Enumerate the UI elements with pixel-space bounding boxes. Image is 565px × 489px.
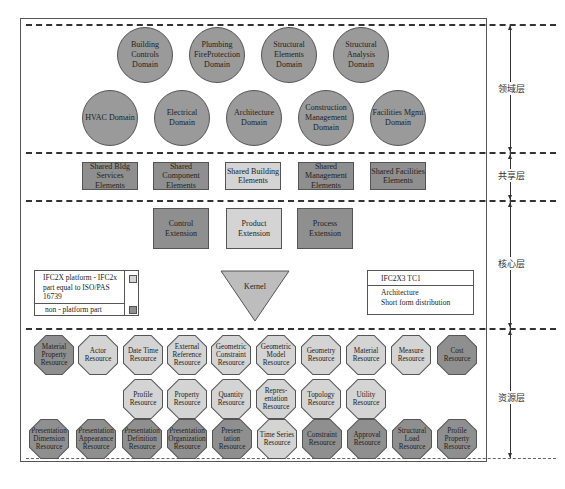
ifc-version-title: IFC2X3 TC1 (368, 271, 473, 286)
presentation-definition-resource: Presentation Definition Resource (123, 420, 161, 458)
resource-label: Property Resource (168, 391, 206, 407)
ifc-version-box: IFC2X3 TC1 Architecture Short form distr… (367, 270, 474, 315)
resource-label: Time Series Resource (258, 431, 296, 447)
shared-label: Shared Facilities Elements (371, 167, 425, 186)
presentation-organization-resource: Presentation Organization Resource (168, 420, 206, 458)
arrow-down-icon (508, 453, 512, 458)
presentation-resource: Presen- tation Resource (213, 420, 251, 458)
approval-resource: Approval Resource (348, 420, 386, 458)
shared-building-elements: Shared Building Elements (225, 162, 281, 190)
presentation-appearance-resource: Presentation Appearance Resource (77, 420, 115, 458)
topology-resource: Topology Resource (302, 380, 340, 418)
arrow-up-icon (508, 330, 512, 335)
kernel-triangle (220, 270, 290, 322)
material-resource: Material Resource (347, 336, 385, 374)
resource-label: Constraint Resource (303, 431, 341, 447)
shared-facilities-elements: Shared Facilities Elements (370, 162, 426, 190)
geometry-resource: Geometry Resource (302, 336, 340, 374)
layer-label-core: 核心层 (490, 257, 532, 270)
resource-label: Cost Resource (438, 347, 476, 363)
separator-domain-shared (26, 152, 556, 154)
separator-bottom (26, 458, 556, 459)
resource-label: Measure Resource (392, 347, 430, 363)
arrow-up-icon (508, 154, 512, 159)
resource-label: Presentation Dimension Resource (30, 427, 68, 452)
ifc-distribution: Short form distribution (381, 298, 473, 308)
profile-property-resource: Profile Property Resource (438, 420, 476, 458)
domain-label: Building Controls Domain (118, 40, 172, 70)
domain-label: Structural Elements Domain (262, 40, 316, 70)
shared-label: Shared Management Elements (299, 162, 353, 191)
shared-component-elements: Shared Component Elements (153, 162, 209, 190)
resource-label: Topology Resource (302, 391, 340, 407)
layer-label-shared: 共享层 (490, 169, 532, 182)
process-extension: Process Extension (297, 208, 353, 249)
time-series-resource: Time Series Resource (258, 420, 296, 458)
domain-plumbing-fireprotection: Plumbing FireProtection Domain (189, 27, 245, 83)
resource-label: Material Property Resource (35, 343, 73, 368)
domain-label: Facilities Mgmt Domain (371, 108, 425, 128)
profile-resource: Profile Resource (124, 380, 162, 418)
legend-platform-text: IFC2X platform - IFC2x part equal to ISO… (35, 271, 125, 304)
domain-structural-elements: Structural Elements Domain (261, 27, 317, 83)
extension-label: Control Extension (154, 219, 208, 238)
resource-label: Profile Resource (124, 391, 162, 407)
measure-resource: Measure Resource (392, 336, 430, 374)
separator-shared-core (26, 200, 556, 202)
resource-label: Geometric Model Resource (257, 343, 295, 368)
control-extension: Control Extension (153, 208, 209, 249)
resource-label: Presentation Organization Resource (168, 427, 206, 452)
resource-label: Material Resource (347, 347, 385, 363)
constraint-resource: Constraint Resource (303, 420, 341, 458)
separator-top (26, 24, 556, 26)
domain-label: Construction Management Domain (299, 103, 353, 133)
shared-bldg-services-elements: Shared Bldg Services Elements (82, 162, 138, 190)
representation-resource: Repres- entation Resource (257, 380, 295, 418)
domain-electrical: Electrical Domain (154, 90, 210, 146)
arrow-down-icon (508, 195, 512, 200)
geometric-constraint-resource: Geometric Constraint Resource (212, 336, 250, 374)
resource-label: Utility Resource (347, 391, 385, 407)
domain-hvac: HVAC Domain (82, 90, 138, 146)
resource-label: Presentation Definition Resource (123, 427, 161, 452)
separator-core-resource (26, 328, 556, 330)
resource-label: Quantity Resource (212, 391, 250, 407)
shared-label: Shared Building Elements (226, 167, 280, 186)
legend-non-platform-text: non - platform part (35, 304, 125, 316)
resource-label: Date Time Resource (124, 347, 162, 363)
external-reference-resource: External Reference Resource (168, 336, 206, 374)
presentation-dimension-resource: Presentation Dimension Resource (30, 420, 68, 458)
layer-label-resource: 资源层 (490, 391, 532, 404)
resource-label: Presentation Appearance Resource (77, 427, 115, 452)
arrow-up-icon (508, 202, 512, 207)
ifc-view-name: Architecture (381, 288, 473, 298)
shared-label: Shared Bldg Services Elements (83, 162, 137, 191)
domain-label: Electrical Domain (155, 108, 209, 128)
resource-label: Structural Load Resource (393, 427, 431, 452)
domain-structural-analysis: Structural Analysis Domain (333, 27, 389, 83)
resource-label: Profile Property Resource (438, 427, 476, 452)
product-extension: Product Extension (226, 208, 282, 249)
resource-label: Actor Resource (79, 347, 117, 363)
kernel-label: Kernel (220, 282, 290, 291)
domain-label: HVAC Domain (85, 113, 134, 123)
actor-resource: Actor Resource (79, 336, 117, 374)
utility-resource: Utility Resource (347, 380, 385, 418)
domain-building-controls: Building Controls Domain (117, 27, 173, 83)
date-time-resource: Date Time Resource (124, 336, 162, 374)
shared-management-elements: Shared Management Elements (298, 162, 354, 190)
resource-label: Approval Resource (348, 431, 386, 447)
domain-architecture: Architecture Domain (226, 90, 282, 146)
legend-platform-swatch (129, 275, 137, 283)
resource-label: Repres- entation Resource (257, 387, 295, 412)
arrow-down-icon (508, 323, 512, 328)
extension-label: Product Extension (227, 219, 281, 238)
legend-non-platform-swatch (129, 306, 137, 314)
quantity-resource: Quantity Resource (212, 380, 250, 418)
cost-resource: Cost Resource (438, 336, 476, 374)
geometric-model-resource: Geometric Model Resource (257, 336, 295, 374)
resource-label: External Reference Resource (168, 343, 206, 368)
layer-label-domain: 领域层 (490, 82, 532, 95)
structural-load-resource: Structural Load Resource (393, 420, 431, 458)
material-property-resource: Material Property Resource (35, 336, 73, 374)
